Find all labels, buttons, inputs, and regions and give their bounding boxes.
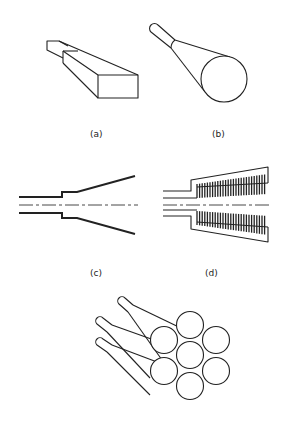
panel-a-label: (a) [90,129,103,139]
panel-c-smooth-horn [19,176,138,234]
panel-b-label: (b) [212,129,225,139]
corrugation-teeth-bottom [197,211,265,235]
panel-e-fiber-bundle [96,297,230,400]
panel-c-label: (c) [90,268,102,278]
panel-d-label: (d) [205,268,218,278]
panel-d-corrugated-horn [163,167,272,242]
panel-a-tapered-bar [47,41,138,98]
panel-b-fiber-cone [150,24,247,102]
corrugation-teeth-top [197,174,265,198]
diagram-figure: (a) (b) (c) (d) [0,0,285,424]
